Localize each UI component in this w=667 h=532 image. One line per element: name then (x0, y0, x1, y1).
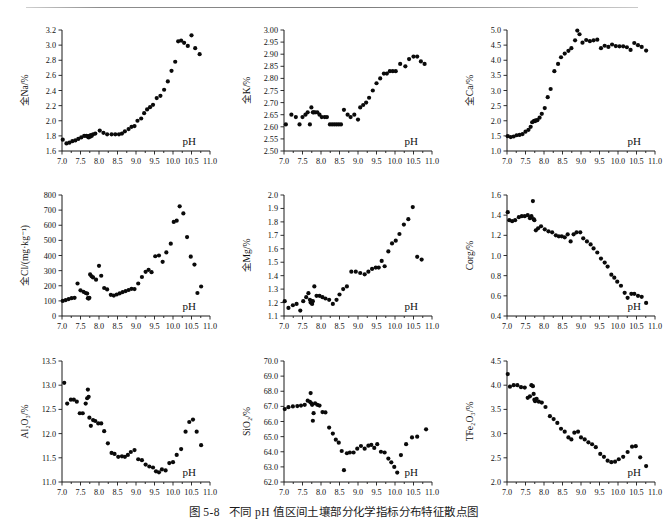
data-point (136, 282, 140, 286)
x-tick-label: 9.5 (372, 322, 382, 331)
data-point (412, 55, 416, 59)
y-tick-label: 69.0 (264, 372, 278, 381)
data-point (149, 270, 153, 274)
x-tick-label: 11.0 (203, 487, 217, 496)
y-tick-label: 1.5 (268, 259, 278, 268)
data-point (308, 122, 312, 126)
data-point (555, 421, 559, 425)
x-tick-label: 8.0 (539, 322, 549, 331)
y-tick-label: 1.0 (490, 252, 500, 261)
y-axis-label-mg: 全Mg/% (241, 239, 252, 273)
data-point (562, 429, 566, 433)
data-point (577, 32, 581, 36)
data-point (522, 385, 526, 389)
data-point (548, 87, 552, 91)
data-point (508, 384, 512, 388)
data-point (185, 235, 189, 239)
data-point (307, 291, 311, 295)
data-point (584, 240, 588, 244)
data-point (303, 402, 307, 406)
data-point (171, 460, 175, 464)
x-tick-label: 8.0 (94, 157, 104, 166)
data-point (610, 42, 614, 46)
x-tick-label: 8.0 (316, 322, 326, 331)
x-tick-label: 8.0 (94, 322, 104, 331)
data-point (198, 52, 202, 56)
y-tick-label: 66.0 (264, 417, 278, 426)
axis-lines (284, 30, 432, 151)
x-tick-label: 8.5 (335, 157, 345, 166)
axis-lines (507, 361, 655, 482)
x-tick-label: 7.0 (57, 322, 67, 331)
data-point (593, 445, 597, 449)
data-point (341, 287, 345, 291)
data-point (295, 302, 299, 306)
data-points-sio2 (283, 391, 429, 475)
data-point (569, 437, 573, 441)
y-tick-label: 3.0 (46, 41, 56, 50)
data-point (153, 254, 157, 258)
x-tick-label: 8.5 (335, 487, 345, 496)
data-point (169, 242, 173, 246)
data-point (310, 105, 314, 109)
data-point (387, 250, 391, 254)
data-point (99, 274, 103, 278)
axis-lines (507, 30, 655, 151)
figure-number: 图 5-8 (189, 506, 220, 518)
axis-lines (62, 30, 210, 151)
y-axis-label-corg: Corg/% (464, 241, 475, 271)
data-point (356, 117, 360, 121)
data-point (595, 38, 599, 42)
scatter-plot-sio2: 62.063.064.065.066.067.068.069.070.07.07… (222, 345, 444, 510)
data-point (192, 263, 196, 267)
y-tick-label: 200 (44, 282, 56, 291)
data-points-cl (61, 205, 204, 304)
data-point (98, 128, 102, 132)
data-point (539, 224, 543, 228)
data-point (530, 199, 534, 203)
data-point (132, 124, 136, 128)
y-tick-label: 1.5 (490, 132, 500, 141)
x-tick-label: 10.5 (629, 487, 643, 496)
y-tick-label: 3.5 (490, 71, 500, 80)
data-point (633, 444, 637, 448)
y-tick-label: 2.65 (264, 111, 278, 120)
data-point (106, 441, 110, 445)
x-tick-label: 7.0 (57, 487, 67, 496)
x-tick-label: 8.0 (539, 487, 549, 496)
y-tick-label: 2.80 (264, 74, 278, 83)
x-tick-label: 10.5 (629, 322, 643, 331)
x-tick-label: 10.5 (184, 487, 198, 496)
data-point (193, 46, 197, 50)
figure-caption-text: 不同 pH 值区间土壤部分化学指标分布特征散点图 (229, 506, 478, 518)
y-tick-label: 1.2 (490, 232, 500, 241)
data-point (402, 223, 406, 227)
x-tick-label: 9.0 (131, 322, 141, 331)
data-point (155, 96, 159, 100)
x-tick-label: 10.5 (407, 157, 421, 166)
data-point (638, 455, 642, 459)
x-tick-label: 8.5 (335, 322, 345, 331)
data-point (612, 276, 616, 280)
x-tick-label: 9.5 (594, 157, 604, 166)
data-point (415, 255, 419, 259)
x-tick-label: 8.5 (557, 487, 567, 496)
y-tick-label: 2.50 (264, 147, 278, 156)
y-tick-label: 2.75 (264, 87, 278, 96)
y-tick-label: 0 (52, 312, 56, 321)
data-point (505, 210, 509, 214)
data-point (199, 443, 203, 447)
scatter-plot-tfe2o3: 2.02.53.03.54.04.57.07.58.08.59.09.510.0… (445, 345, 667, 510)
y-axis-label-cl: 全Cl/(mg·kg⁻¹) (19, 225, 31, 286)
data-point (619, 284, 623, 288)
x-axis-label-mg: pH (405, 300, 419, 312)
data-point (395, 470, 399, 474)
x-tick-label: 11.0 (648, 157, 662, 166)
y-tick-label: 4.5 (490, 357, 500, 366)
x-tick-label: 8.0 (316, 487, 326, 496)
y-tick-label: 1.8 (268, 218, 278, 227)
data-point (363, 446, 367, 450)
data-point (355, 446, 359, 450)
data-point (142, 111, 146, 115)
data-point (531, 391, 535, 395)
